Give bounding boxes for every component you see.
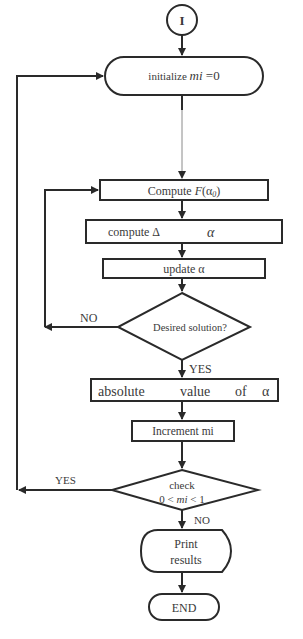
decision-check-node: check 0 < mi < 1 (112, 470, 258, 510)
update-label: update α (163, 262, 205, 276)
no-label-check: NO (194, 514, 210, 526)
svg-text:Compute F(α0): Compute F(α0) (148, 184, 221, 199)
end-node: END (149, 594, 219, 620)
update-node: update α (103, 259, 265, 278)
yes-label-check: YES (55, 474, 76, 486)
compute-delta-var: α (207, 225, 215, 240)
print-line1: Print (174, 537, 198, 551)
check-line2-pre: 0 < (159, 493, 176, 505)
arrow-no-loop-to-compute (45, 190, 98, 327)
start-label: I (179, 13, 184, 28)
check-line1: check (169, 479, 195, 491)
initialize-suffix: =0 (203, 68, 220, 83)
initialize-var: mi (190, 68, 203, 83)
compute-f-close: ) (216, 184, 220, 198)
print-node: Print results (141, 530, 231, 572)
flowchart: I initialize mi =0 Compute F(α0) compute… (0, 0, 303, 639)
initialize-node: initialize mi =0 (105, 57, 263, 95)
compute-f-node: Compute F(α0) (100, 180, 268, 200)
absolute-node: absolute value of α (91, 379, 278, 401)
absolute-word-3: of (235, 384, 247, 399)
end-label: END (172, 601, 197, 615)
start-connector: I (167, 5, 197, 35)
arrow-yes-loop-to-init (17, 76, 103, 490)
initialize-label: initialize (148, 70, 189, 82)
compute-delta-label: compute Δ (108, 225, 160, 239)
no-label-solution: NO (80, 311, 98, 325)
decision-solution-label: Desired solution? (153, 322, 227, 333)
check-line2-var: mi (177, 493, 188, 505)
compute-f-label: Compute (148, 184, 195, 198)
check-line2-post: < 1 (188, 493, 205, 505)
decision-solution-node: Desired solution? (118, 293, 250, 360)
absolute-word-1: absolute (98, 384, 145, 399)
svg-text:0 < mi < 1: 0 < mi < 1 (159, 493, 204, 505)
absolute-word-4: α (262, 384, 270, 399)
svg-text:initialize mi =0: initialize mi =0 (148, 68, 219, 83)
increment-node: Increment mi (132, 421, 234, 441)
print-line2: results (170, 553, 202, 567)
compute-delta-node: compute Δ α (86, 220, 282, 243)
yes-label-solution: YES (189, 362, 212, 376)
increment-label: Increment mi (152, 425, 214, 437)
absolute-word-2: value (180, 384, 210, 399)
